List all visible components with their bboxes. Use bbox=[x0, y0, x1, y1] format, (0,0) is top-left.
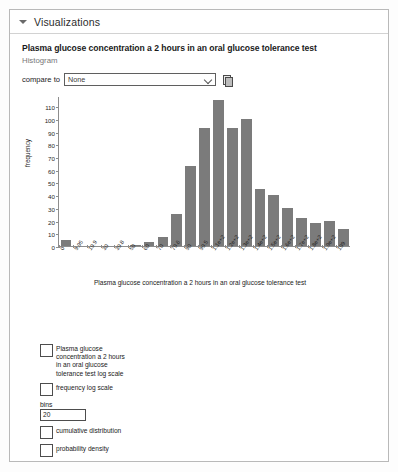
log-scale-checkbox[interactable] bbox=[40, 344, 53, 357]
chevron-down-icon[interactable] bbox=[204, 75, 213, 84]
y-tick-label: 100 bbox=[45, 116, 55, 123]
bar-slot bbox=[239, 97, 253, 246]
bar-slot bbox=[336, 97, 350, 246]
compare-to-row: compare to None bbox=[22, 73, 378, 86]
plot-area: 0102030405060708090100110 bbox=[58, 97, 350, 247]
bar-slot bbox=[211, 97, 225, 246]
bar-slot bbox=[128, 97, 142, 246]
y-tick-label: 90 bbox=[48, 129, 55, 136]
chart-subtitle: Histogram bbox=[22, 56, 378, 66]
cumulative-distribution-label: cumulative distribution bbox=[56, 426, 121, 435]
y-tick-label: 0 bbox=[52, 244, 55, 251]
bar-slot bbox=[101, 97, 115, 246]
bar-slot bbox=[281, 97, 295, 246]
bar-slot bbox=[142, 97, 156, 246]
copy-icon[interactable] bbox=[223, 75, 232, 85]
panel-header-title: Visualizations bbox=[34, 16, 100, 28]
option-log-scale[interactable]: Plasma glucose concentration a 2 hours i… bbox=[40, 344, 240, 378]
triangle-down-icon[interactable] bbox=[19, 20, 27, 24]
histogram-bar bbox=[199, 128, 210, 246]
cumulative-distribution-checkbox[interactable] bbox=[40, 426, 53, 439]
bar-slot bbox=[295, 97, 309, 246]
bar-slot bbox=[156, 97, 170, 246]
bar-slot bbox=[59, 97, 73, 246]
bar-slot bbox=[73, 97, 87, 246]
bar-series bbox=[59, 97, 350, 246]
probability-density-label: probability density bbox=[56, 444, 109, 453]
bar-slot bbox=[253, 97, 267, 246]
chart-title: Plasma glucose concentration a 2 hours i… bbox=[22, 43, 378, 54]
x-axis-ticks: 09.9519.93039.850607079.69099.51.1e+21.2… bbox=[59, 248, 350, 278]
bar-slot bbox=[267, 97, 281, 246]
bar-slot bbox=[308, 97, 322, 246]
y-tick-label: 40 bbox=[48, 193, 55, 200]
y-tick-label: 80 bbox=[48, 142, 55, 149]
y-axis-label: frequency bbox=[24, 139, 31, 167]
histogram-bar bbox=[241, 119, 252, 246]
y-tick-label: 50 bbox=[48, 180, 55, 187]
options-group: Plasma glucose concentration a 2 hours i… bbox=[40, 344, 240, 462]
visualizations-panel: Visualizations Plasma glucose concentrat… bbox=[9, 9, 389, 462]
compare-to-select[interactable]: None bbox=[64, 73, 216, 86]
bar-slot bbox=[184, 97, 198, 246]
bar-slot bbox=[225, 97, 239, 246]
panel-body: Plasma glucose concentration a 2 hours i… bbox=[10, 34, 388, 461]
y-tick-label: 70 bbox=[48, 155, 55, 162]
x-axis-label: Plasma glucose concentration a 2 hours i… bbox=[22, 279, 378, 286]
screenshot-root: Visualizations Plasma glucose concentrat… bbox=[0, 0, 398, 472]
compare-to-value: None bbox=[68, 75, 85, 84]
y-tick-label: 30 bbox=[48, 205, 55, 212]
bar-slot bbox=[198, 97, 212, 246]
compare-to-label: compare to bbox=[22, 75, 60, 84]
log-scale-label: Plasma glucose concentration a 2 hours i… bbox=[56, 344, 126, 378]
histogram-bar bbox=[61, 240, 72, 246]
histogram-bar bbox=[227, 128, 238, 246]
bar-slot bbox=[322, 97, 336, 246]
bar-slot bbox=[114, 97, 128, 246]
y-tick-label: 20 bbox=[48, 218, 55, 225]
bar-slot bbox=[87, 97, 101, 246]
option-frequency-log-scale[interactable]: frequency log scale bbox=[40, 383, 240, 396]
histogram-bar bbox=[213, 100, 224, 246]
panel-header[interactable]: Visualizations bbox=[10, 10, 388, 34]
histogram-bar bbox=[185, 166, 196, 246]
y-tick-label: 110 bbox=[45, 104, 55, 111]
bar-slot bbox=[170, 97, 184, 246]
bins-label: bins bbox=[40, 401, 240, 408]
frequency-log-scale-checkbox[interactable] bbox=[40, 383, 53, 396]
histogram-chart: frequency 0102030405060708090100110 09.9… bbox=[22, 93, 378, 281]
y-tick-label: 10 bbox=[48, 231, 55, 238]
frequency-log-scale-label: frequency log scale bbox=[56, 383, 113, 392]
y-tick-label: 60 bbox=[48, 167, 55, 174]
option-probability-density[interactable]: probability density bbox=[40, 444, 240, 457]
probability-density-checkbox[interactable] bbox=[40, 444, 53, 457]
bins-input[interactable]: 20 bbox=[40, 409, 86, 421]
option-cumulative-distribution[interactable]: cumulative distribution bbox=[40, 426, 240, 439]
